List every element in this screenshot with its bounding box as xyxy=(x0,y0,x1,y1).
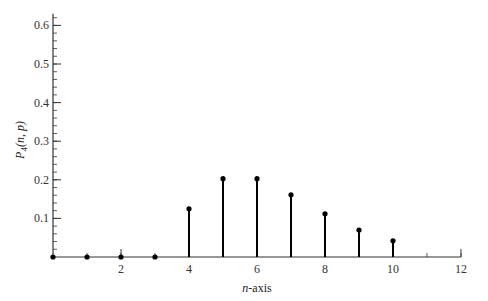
ticks: 246810120.10.20.30.40.50.6 xyxy=(34,18,467,276)
y-axis-title: P4(n, p) xyxy=(13,121,29,160)
x-tick-label: 8 xyxy=(322,262,328,276)
y-tick-label: 0.2 xyxy=(34,173,49,187)
stems xyxy=(50,176,395,260)
stem-marker xyxy=(152,254,157,259)
stem-marker xyxy=(356,227,361,232)
x-tick-label: 12 xyxy=(455,262,467,276)
x-axis-title: n-axis xyxy=(242,281,272,295)
x-tick-label: 4 xyxy=(186,262,192,276)
stem-marker xyxy=(322,211,327,216)
x-tick-label: 6 xyxy=(254,262,260,276)
x-tick-label: 2 xyxy=(118,262,124,276)
stem-marker xyxy=(50,254,55,259)
stem-marker xyxy=(186,206,191,211)
y-tick-label: 0.6 xyxy=(34,18,49,32)
y-tick-label: 0.1 xyxy=(34,211,49,225)
stem-marker xyxy=(254,176,259,181)
y-tick-label: 0.4 xyxy=(34,96,49,110)
stem-chart: 246810120.10.20.30.40.50.6 n-axis P4(n, … xyxy=(0,0,488,301)
stem-marker xyxy=(118,254,123,259)
stem-marker xyxy=(390,238,395,243)
y-tick-label: 0.5 xyxy=(34,57,49,71)
y-tick-label: 0.3 xyxy=(34,134,49,148)
stem-marker xyxy=(84,254,89,259)
stem-marker xyxy=(288,192,293,197)
stem-marker xyxy=(220,176,225,181)
x-tick-label: 10 xyxy=(387,262,399,276)
